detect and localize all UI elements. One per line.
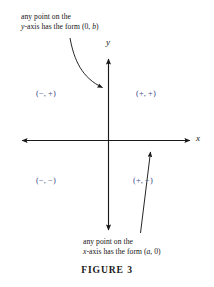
- y-axis-annotation-line1: any point on the: [21, 12, 99, 22]
- x-axis-annotation-line2: x-axis has the form (a, 0): [83, 247, 161, 257]
- x-axis-annotation-mid: -axis has the form (: [86, 247, 146, 256]
- x-axis-annotation: any point on the x-axis has the form (a,…: [83, 237, 161, 256]
- quadrant-label-ii: (−, +): [36, 89, 56, 98]
- y-axis-annotation-line2: y-axis has the form (0, b): [21, 22, 99, 32]
- x-axis-label: x: [196, 134, 200, 143]
- pointer-line-to-x-axis: [141, 152, 151, 233]
- quadrant-label-iv: (+, −): [133, 176, 153, 185]
- y-axis-annotation-mid: -axis has the form (0,: [24, 22, 92, 31]
- quadrant-label-iii: (−, −): [36, 176, 56, 185]
- figure-caption: FIGURE 3: [0, 264, 214, 275]
- pointer-curve-to-y-axis: [70, 38, 103, 88]
- quadrant-label-i: (+, +): [136, 89, 156, 98]
- y-axis-annotation: any point on the y-axis has the form (0,…: [21, 12, 99, 31]
- figure-3-coordinate-plane: any point on the y-axis has the form (0,…: [0, 0, 214, 287]
- y-axis-label: y: [106, 38, 110, 47]
- x-axis-annotation-suffix: , 0): [150, 247, 160, 256]
- x-axis-annotation-line1: any point on the: [83, 237, 161, 247]
- y-axis-annotation-suffix: ): [96, 22, 99, 31]
